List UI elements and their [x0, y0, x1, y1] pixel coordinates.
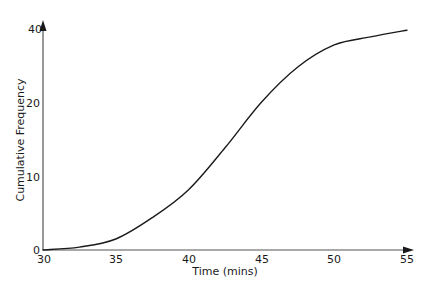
y-axis-title: Cumulative Frequency [14, 78, 27, 202]
x-tick-30: 30 [37, 253, 51, 266]
x-tick-55: 55 [400, 253, 414, 266]
y-tick-10: 10 [26, 171, 40, 184]
y-tick-40: 40 [28, 23, 42, 36]
x-axis-title: Time (mins) [191, 265, 257, 278]
y-tick-labels: 0 10 20 40 [26, 23, 42, 257]
cumulative-frequency-curve [43, 30, 407, 250]
cumulative-frequency-chart: 0 10 20 40 30 35 40 45 50 55 Time (mins)… [0, 0, 426, 290]
y-tick-20: 20 [26, 97, 40, 110]
x-tick-35: 35 [109, 253, 123, 266]
x-tick-50: 50 [327, 253, 341, 266]
